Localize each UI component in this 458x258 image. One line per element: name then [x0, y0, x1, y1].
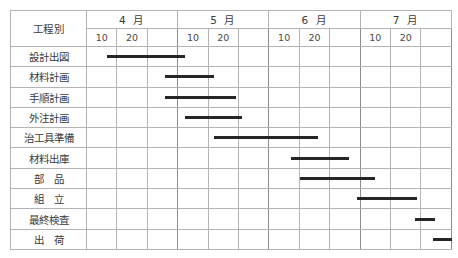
- grid-cell: [147, 209, 177, 229]
- grid-cell: [208, 229, 238, 249]
- grid-cell: [87, 128, 117, 148]
- tick-m1-20: 20: [208, 29, 238, 47]
- grid-cell: [117, 47, 147, 67]
- row-label-7: 組 立: [11, 189, 87, 209]
- gantt-header: 工程別 4 月 5 月 6 月 7 月 10 20 10 20: [11, 11, 452, 47]
- grid-cell: [178, 189, 208, 209]
- grid-cell: [360, 189, 390, 209]
- grid-cell: [391, 107, 421, 127]
- row-label-5: 材料出庫: [11, 148, 87, 168]
- grid-cell: [391, 229, 421, 249]
- grid-cell: [360, 148, 390, 168]
- grid-cell: [269, 67, 299, 87]
- grid-cell: [87, 107, 117, 127]
- grid-cell: [421, 168, 452, 188]
- tick-m3-10: 10: [360, 29, 390, 47]
- grid-cell: [391, 128, 421, 148]
- grid-cell: [147, 47, 177, 67]
- tick-m1-10: 10: [178, 29, 208, 47]
- grid-cell: [239, 107, 269, 127]
- grid-cell: [421, 229, 452, 249]
- grid-cell: [87, 87, 117, 107]
- row-label-6: 部 品: [11, 168, 87, 188]
- grid-cell: [117, 87, 147, 107]
- tick-m3-end: [421, 29, 452, 47]
- grid-cell: [360, 128, 390, 148]
- grid-cell: [147, 168, 177, 188]
- grid-cell: [178, 209, 208, 229]
- grid-cell: [299, 67, 329, 87]
- grid-cell: [239, 209, 269, 229]
- gantt-body: 設計出図材料計画手順計画外注計画治工具準備材料出庫部 品組 立最終検査出 荷: [11, 47, 452, 250]
- grid-cell: [360, 87, 390, 107]
- grid-cell: [330, 209, 360, 229]
- month-header-3: 7 月: [360, 11, 451, 29]
- grid-cell: [178, 148, 208, 168]
- grid-cell: [239, 168, 269, 188]
- month-header-0: 4 月: [87, 11, 178, 29]
- row-label-1: 材料計画: [11, 67, 87, 87]
- grid-cell: [147, 87, 177, 107]
- month-header-1: 5 月: [178, 11, 269, 29]
- grid-cell: [208, 168, 238, 188]
- tick-m2-end: [330, 29, 360, 47]
- tick-m2-20: 20: [299, 29, 329, 47]
- gantt-table: 工程別 4 月 5 月 6 月 7 月 10 20 10 20: [10, 10, 452, 250]
- grid-cell: [330, 128, 360, 148]
- grid-cell: [208, 67, 238, 87]
- grid-cell: [421, 47, 452, 67]
- grid-cell: [117, 209, 147, 229]
- grid-cell: [299, 47, 329, 67]
- table-row: 手順計画: [11, 87, 452, 107]
- grid-cell: [330, 87, 360, 107]
- grid-cell: [360, 107, 390, 127]
- grid-cell: [87, 189, 117, 209]
- grid-cell: [421, 67, 452, 87]
- grid-cell: [178, 229, 208, 249]
- grid-cell: [330, 47, 360, 67]
- grid-cell: [360, 209, 390, 229]
- month-label-0: 4 月: [119, 14, 145, 26]
- grid-cell: [239, 87, 269, 107]
- row-label-0: 設計出図: [11, 47, 87, 67]
- grid-cell: [299, 209, 329, 229]
- grid-cell: [269, 168, 299, 188]
- grid-cell: [421, 209, 452, 229]
- grid-cell: [391, 47, 421, 67]
- grid-cell: [178, 67, 208, 87]
- tick-m0-10: 10: [87, 29, 117, 47]
- tick-m0-20: 20: [117, 29, 147, 47]
- grid-cell: [239, 67, 269, 87]
- table-row: 外注計画: [11, 107, 452, 127]
- tick-m3-20: 20: [391, 29, 421, 47]
- grid-cell: [391, 67, 421, 87]
- grid-cell: [87, 148, 117, 168]
- grid-cell: [269, 47, 299, 67]
- grid-cell: [147, 128, 177, 148]
- grid-cell: [269, 209, 299, 229]
- table-row: 部 品: [11, 168, 452, 188]
- grid-cell: [330, 229, 360, 249]
- grid-cell: [360, 47, 390, 67]
- grid-cell: [208, 209, 238, 229]
- grid-cell: [117, 168, 147, 188]
- tick-m2-10: 10: [269, 29, 299, 47]
- grid-cell: [208, 189, 238, 209]
- grid-cell: [117, 229, 147, 249]
- tick-m1-end: [239, 29, 269, 47]
- grid-cell: [421, 107, 452, 127]
- grid-cell: [421, 148, 452, 168]
- grid-cell: [239, 189, 269, 209]
- grid-cell: [239, 128, 269, 148]
- grid-cell: [330, 107, 360, 127]
- grid-cell: [117, 148, 147, 168]
- grid-cell: [147, 229, 177, 249]
- grid-cell: [421, 128, 452, 148]
- grid-cell: [239, 148, 269, 168]
- grid-cell: [178, 168, 208, 188]
- grid-cell: [178, 87, 208, 107]
- table-row: 材料計画: [11, 67, 452, 87]
- table-row: 材料出庫: [11, 148, 452, 168]
- gantt-chart: 工程別 4 月 5 月 6 月 7 月 10 20 10 20: [10, 10, 452, 248]
- grid-cell: [299, 148, 329, 168]
